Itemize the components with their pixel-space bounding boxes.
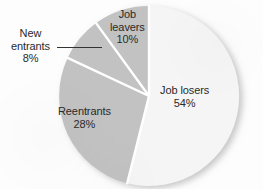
pie-label-new-entrants-line2: entrants [11, 40, 50, 53]
pie-label-job-leavers-value: 10% [110, 33, 145, 46]
pie-label-job-losers-text: Job losers [160, 84, 209, 96]
pie-label-job-leavers: Job leavers 10% [110, 8, 145, 46]
pie-label-new-entrants-value: 8% [11, 52, 50, 65]
pie-label-new-entrants: New entrants 8% [11, 27, 50, 65]
pie-label-job-leavers-line1: Job [119, 8, 136, 20]
pie-label-new-entrants-line1: New [20, 27, 42, 39]
pie-label-reentrants-value: 28% [58, 118, 111, 131]
pie-label-job-leavers-line2: leavers [110, 21, 145, 34]
pie-label-job-losers: Job losers 54% [160, 84, 209, 109]
pie-leader-line-new-entrants [57, 47, 102, 48]
pie-chart-figure: Job losers 54% Reentrants 28% New entran… [0, 0, 263, 189]
pie-label-reentrants-text: Reentrants [58, 105, 111, 117]
pie-label-reentrants: Reentrants 28% [58, 105, 111, 130]
pie-label-job-losers-value: 54% [160, 97, 209, 110]
